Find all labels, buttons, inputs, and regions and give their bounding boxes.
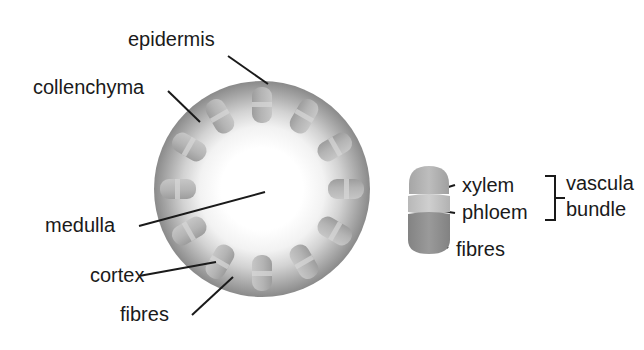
vascular-bundle bbox=[252, 87, 272, 123]
label-xylem: xylem bbox=[462, 174, 514, 196]
vascular-bundle-bracket bbox=[545, 176, 565, 220]
vascular-bundle bbox=[252, 255, 272, 291]
label-medulla: medulla bbox=[45, 214, 115, 236]
bundle-band bbox=[252, 271, 272, 276]
diagram-graphics bbox=[0, 0, 644, 350]
phloem-segment bbox=[408, 194, 450, 214]
label-fibres-detail: fibres bbox=[456, 238, 505, 260]
label-collenchyma: collenchyma bbox=[33, 76, 144, 98]
vascular-bundle bbox=[328, 179, 364, 199]
vascular-bundle-detail-shape bbox=[408, 166, 450, 254]
label-cortex: cortex bbox=[90, 264, 144, 286]
bundle-band bbox=[252, 102, 272, 107]
label-vascular-bundle-line1: vascula bbox=[566, 172, 634, 194]
fibres-segment bbox=[408, 212, 450, 254]
bundle-band bbox=[175, 179, 180, 199]
label-vascular-bundle-line2: bundle bbox=[566, 198, 626, 220]
xylem-segment bbox=[409, 166, 449, 194]
bundle-band bbox=[344, 179, 349, 199]
bracket-shape bbox=[545, 176, 555, 220]
vascular-bundle bbox=[160, 179, 196, 199]
leader-epidermis bbox=[228, 56, 268, 84]
diagram-canvas: epidermis collenchyma medulla cortex fib… bbox=[0, 0, 644, 350]
label-epidermis: epidermis bbox=[128, 28, 215, 50]
label-phloem: phloem bbox=[462, 201, 528, 223]
label-fibres-stem: fibres bbox=[120, 303, 169, 325]
